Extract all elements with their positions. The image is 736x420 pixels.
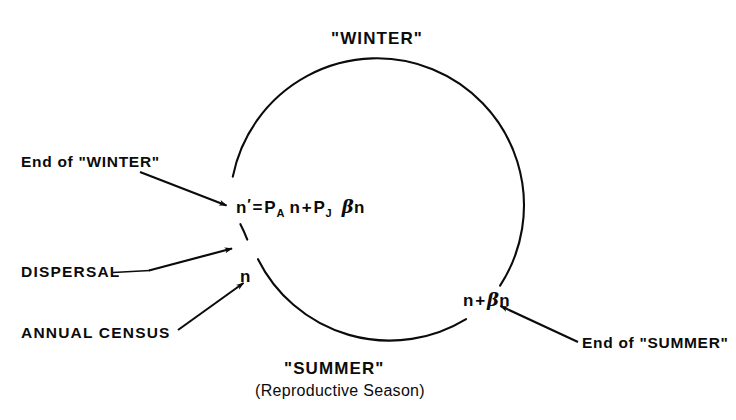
arrow-annual-census xyxy=(178,283,244,330)
arrow-end-of-summer xyxy=(501,306,579,342)
n-beta-beta: β xyxy=(487,289,499,310)
equation-equals: = xyxy=(251,198,264,217)
n-beta-plus: + xyxy=(474,291,487,310)
equation-term2-base: P xyxy=(313,198,325,217)
equation-term2-subscript: J xyxy=(325,207,332,219)
equation-lhs: n xyxy=(236,198,247,217)
equation-term1-base: P xyxy=(264,198,276,217)
equation-plus: + xyxy=(300,198,313,217)
label-summer-subtitle: (Reproductive Season) xyxy=(255,383,425,399)
ring-arc-winter xyxy=(233,58,524,285)
ring-arc-dispersal-segment xyxy=(240,224,247,239)
callout-end-of-summer: End of "SUMMER" xyxy=(582,335,729,351)
n-beta-variable: n xyxy=(499,291,510,310)
arrow-dispersal xyxy=(113,249,232,273)
n-beta-lhs: n xyxy=(463,291,474,310)
ring-arc-summer xyxy=(258,259,466,340)
arrow-end-of-winter xyxy=(140,172,227,206)
node-n-plus-beta-n: n+βn xyxy=(463,291,510,309)
equation-term2-variable: n xyxy=(354,198,365,217)
node-n-prime-equation: n′=PA n+PJ βn xyxy=(236,196,365,219)
figure-canvas: "WINTER" "SUMMER" (Reproductive Season) … xyxy=(0,0,736,420)
label-winter: "WINTER" xyxy=(331,30,423,47)
equation-term1-subscript: A xyxy=(276,207,284,219)
label-summer: "SUMMER" xyxy=(284,360,384,377)
equation-term1-variable: n xyxy=(289,198,300,217)
callout-end-of-winter: End of "WINTER" xyxy=(21,154,160,170)
cycle-diagram-graphic xyxy=(0,0,736,420)
equation-term2-beta: β xyxy=(342,196,354,217)
callout-dispersal: DISPERSAL xyxy=(21,264,121,280)
node-n-label: n xyxy=(240,268,251,285)
callout-annual-census: ANNUAL CENSUS xyxy=(21,325,171,341)
